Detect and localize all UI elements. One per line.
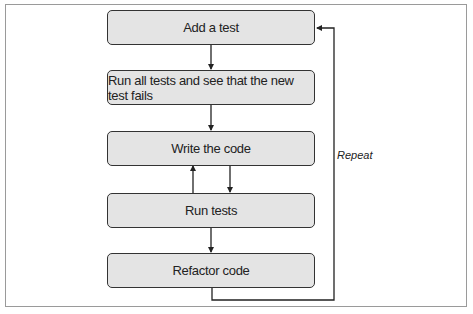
- step-run-tests: Run tests: [107, 193, 315, 228]
- step-refactor-code: Refactor code: [107, 253, 315, 288]
- step-label: Refactor code: [172, 263, 249, 278]
- step-label: Run tests: [185, 203, 237, 218]
- step-label: Add a test: [183, 20, 239, 35]
- step-label: Run all tests and see that the new test …: [108, 73, 314, 103]
- step-run-all-tests: Run all tests and see that the new test …: [107, 70, 315, 105]
- step-add-test: Add a test: [107, 10, 315, 45]
- step-write-code: Write the code: [107, 131, 315, 166]
- step-label: Write the code: [171, 141, 250, 156]
- repeat-label: Repeat: [337, 149, 372, 161]
